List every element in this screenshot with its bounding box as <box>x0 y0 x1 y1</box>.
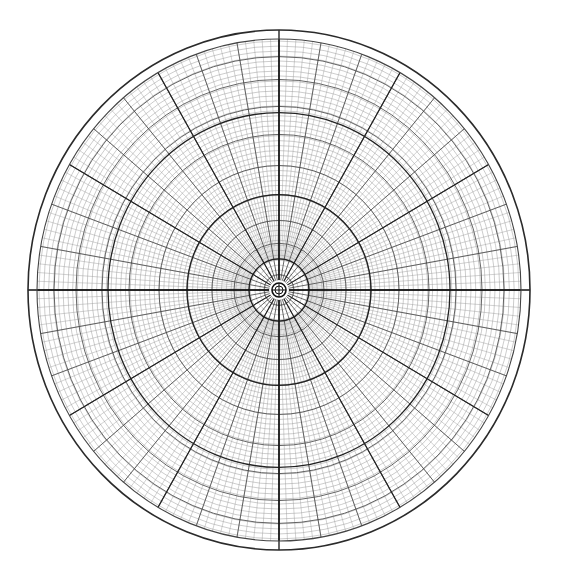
medium-spoke <box>286 204 507 287</box>
fine-spoke <box>293 317 393 511</box>
fine-spoke <box>305 305 492 408</box>
fine-spoke <box>65 172 252 275</box>
polar-graph-paper <box>0 0 561 581</box>
fine-spoke <box>37 291 249 299</box>
fine-spoke <box>39 294 249 325</box>
medium-spoke <box>52 204 273 287</box>
medium-spoke <box>41 291 272 333</box>
fine-spoke <box>309 281 521 289</box>
fine-spoke <box>291 61 377 262</box>
fine-spoke <box>309 294 519 325</box>
fine-spoke <box>309 291 521 299</box>
fine-spoke <box>291 318 377 519</box>
fine-spoke <box>58 188 252 277</box>
fine-spoke <box>39 255 249 286</box>
fine-spoke <box>165 68 265 262</box>
medium-spoke <box>281 54 361 283</box>
fine-spoke <box>245 321 275 539</box>
fine-spoke <box>245 41 275 259</box>
fine-spoke <box>271 321 278 541</box>
fine-spoke <box>306 188 500 277</box>
fine-spoke <box>283 321 313 539</box>
fine-spoke <box>181 318 267 519</box>
fine-spoke <box>58 303 252 392</box>
medium-spoke <box>286 292 507 375</box>
fine-spoke <box>293 68 393 262</box>
fine-spoke <box>283 41 313 259</box>
fine-spoke <box>65 305 252 408</box>
medium-spoke <box>286 246 517 288</box>
fine-spoke <box>181 61 267 262</box>
fine-spoke <box>306 303 500 392</box>
polar-grid-chart <box>0 0 561 581</box>
fine-spoke <box>165 317 265 511</box>
center-hub <box>269 280 289 300</box>
fine-spoke <box>280 39 287 259</box>
medium-spoke <box>41 246 272 288</box>
medium-spoke <box>52 292 273 375</box>
medium-spoke <box>286 291 517 333</box>
medium-spoke <box>196 297 276 526</box>
fine-spoke <box>280 321 287 541</box>
fine-spoke <box>271 39 278 259</box>
fine-spoke <box>309 255 519 286</box>
fine-spoke <box>37 281 249 289</box>
medium-spoke <box>196 54 276 283</box>
medium-spoke <box>281 297 361 526</box>
fine-spoke <box>305 172 492 275</box>
